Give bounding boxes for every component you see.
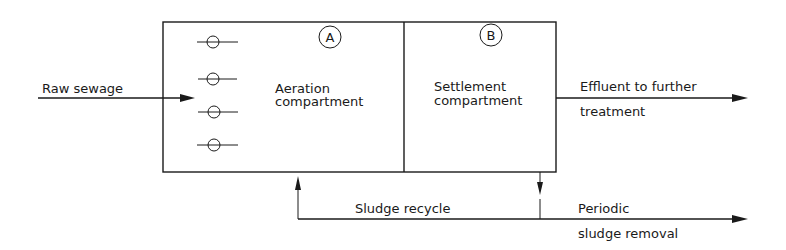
aeration-label-2: compartment	[275, 94, 363, 109]
svg-text:A: A	[326, 30, 335, 45]
sludge-recycle-label: Sludge recycle	[355, 201, 450, 216]
sludge-drawoff-arrow	[537, 172, 543, 219]
settlement-label-1: Settlement	[434, 79, 506, 94]
removal-label-1: Periodic	[578, 201, 629, 216]
effluent-arrow	[556, 94, 748, 102]
marker-b: B	[480, 24, 502, 46]
marker-a: A	[319, 26, 341, 48]
air-diffuser-icon	[197, 36, 238, 151]
svg-text:B: B	[487, 28, 496, 43]
effluent-label-1: Effluent to further	[580, 79, 697, 94]
settlement-label-2: compartment	[434, 93, 522, 108]
effluent-label-2: treatment	[580, 104, 645, 119]
process-diagram: A B Aeration compartment Settlement comp…	[0, 0, 786, 250]
removal-label-2: sludge removal	[578, 226, 678, 241]
raw-sewage-label: Raw sewage	[42, 81, 123, 96]
removal-arrowhead	[732, 215, 748, 223]
